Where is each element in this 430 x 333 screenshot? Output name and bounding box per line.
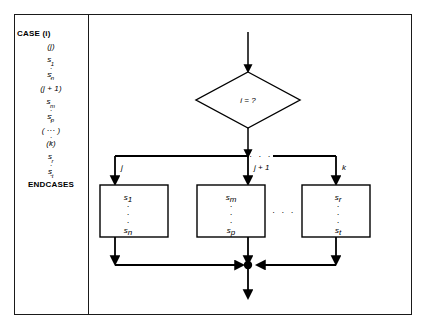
- merge-junction-dot: [244, 261, 252, 269]
- branch-label-j-plus-1: j + 1: [253, 163, 269, 172]
- decision-label: i = ?: [240, 96, 256, 105]
- branch-label-j: j: [120, 163, 123, 172]
- stmt-sub: r: [52, 158, 54, 164]
- code-line-s1: s1: [15, 56, 87, 66]
- figure-root: CASE (i) (j) s1 ··· sn (j + 1) sm ··· sp…: [0, 0, 430, 333]
- code-line-endcases: ENDCASES: [15, 181, 87, 189]
- stmt-sub: n: [51, 75, 54, 81]
- pseudo-code-panel: CASE (i) (j) s1 ··· sn (j + 1) sm ··· sp…: [15, 30, 87, 305]
- stmt-sub: 1: [51, 61, 54, 67]
- flowchart-panel: i = ? j j + 1 k · · · · · · · · · s1 · ·…: [88, 14, 412, 319]
- code-line-sn: sn: [15, 71, 87, 81]
- stmt-sub: p: [51, 117, 54, 123]
- ellipsis-merge-bus: · · ·: [281, 261, 304, 270]
- code-line-sp: sp: [15, 113, 87, 123]
- process-box-1: [100, 185, 168, 237]
- flowchart-svg: i = ? j j + 1 k · · · · · · · · · s1 · ·…: [88, 14, 412, 315]
- code-line-sm: sm: [15, 98, 87, 108]
- code-line-case-k: (k): [15, 140, 87, 148]
- code-line-case-j: (j): [15, 43, 87, 51]
- stmt-sub: n: [128, 228, 133, 237]
- code-line-st: st: [15, 168, 87, 178]
- branch-label-k: k: [342, 163, 347, 172]
- stmt-sub: p: [230, 228, 236, 237]
- code-line-case-j-plus-1: (j + 1): [15, 85, 87, 93]
- ellipsis-between-boxes: · · ·: [272, 208, 295, 217]
- stmt-sub: m: [50, 103, 55, 109]
- code-line-case: CASE (i): [15, 30, 87, 38]
- ellipsis-branch-bus: · · ·: [249, 152, 272, 161]
